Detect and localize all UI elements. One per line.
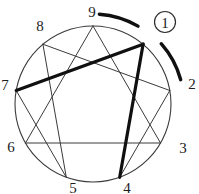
wing-arc-1-2 [161,44,181,80]
point-label-2: 2 [188,76,196,92]
enneagram-canvas: 912345678 [0,0,199,194]
wing-arc-9-1 [99,14,138,26]
enneagram-circle [15,26,171,182]
point-label-1: 1 [161,15,169,31]
point-label-3: 3 [179,140,187,156]
point-label-4: 4 [123,180,131,194]
point-label-8: 8 [36,18,44,34]
point-label-5: 5 [69,180,77,194]
enneagram-figure: 912345678 [0,0,199,194]
point-label-6: 6 [7,139,15,155]
point-label-7: 7 [1,77,9,93]
point-label-9: 9 [88,4,96,20]
connection-line-9-3 [93,26,161,143]
